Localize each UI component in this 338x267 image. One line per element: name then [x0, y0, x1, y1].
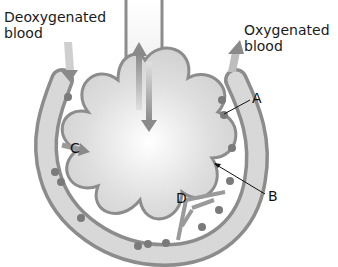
oxygenated-label: Oxygenated blood — [244, 22, 330, 54]
deoxygenated-label: Deoxygenated blood — [4, 9, 106, 41]
label-a: A — [252, 90, 262, 106]
label-b: B — [268, 188, 278, 204]
oxygenated-label-line2: blood — [244, 38, 330, 54]
deoxygenated-label-line1: Deoxygenated — [4, 9, 106, 25]
deoxygenated-label-line2: blood — [4, 25, 106, 41]
oxygenated-flow-arrow — [228, 40, 244, 72]
label-c: C — [70, 140, 80, 156]
oxygenated-label-line1: Oxygenated — [244, 22, 330, 38]
label-d: D — [176, 190, 187, 206]
